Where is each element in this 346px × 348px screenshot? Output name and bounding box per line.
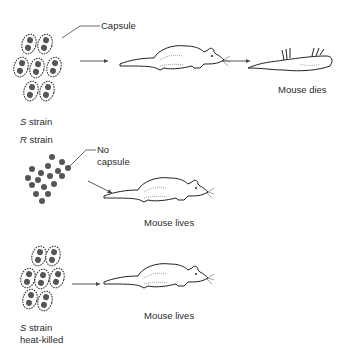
mouse-live-3	[104, 264, 214, 288]
no-capsule-leader-line	[68, 150, 96, 168]
capsule-label: Capsule	[101, 20, 136, 31]
capsule-leader-line	[62, 26, 100, 38]
outcome-label-3: Mouse lives	[144, 310, 194, 321]
strain-letter: R	[20, 134, 27, 145]
diagram-canvas	[0, 0, 346, 348]
no-capsule-label-line2: capsule	[97, 156, 130, 167]
mouse-live-2	[104, 178, 214, 202]
strain-label-2: R strain	[20, 134, 53, 145]
no-capsule-label-line1: No	[97, 144, 109, 155]
outcome-label-1: Mouse dies	[278, 84, 327, 95]
strain-label-1: S strain	[20, 116, 52, 127]
s-strain-cells	[12, 33, 64, 103]
strain-label-3: S strain	[20, 322, 52, 333]
r-strain-cells	[25, 154, 71, 204]
arrow-injection-2	[88, 181, 112, 193]
heat-killed-s-strain-cells	[19, 245, 67, 313]
outcome-label-2: Mouse lives	[144, 217, 194, 228]
mouse-live-1	[120, 46, 230, 70]
mouse-dead	[248, 48, 332, 71]
strain-note-3: heat-killed	[20, 334, 63, 345]
